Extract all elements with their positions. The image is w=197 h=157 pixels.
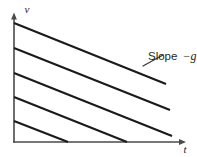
t-axis-label: t xyxy=(183,143,187,155)
velocity-line-2 xyxy=(14,48,170,110)
velocity-time-figure: v t Slope −g xyxy=(0,0,197,157)
velocity-line-4 xyxy=(14,97,127,142)
v-axis-label: v xyxy=(25,3,30,15)
arrow-up-icon xyxy=(11,13,17,20)
figure-canvas: v t Slope −g xyxy=(0,0,197,157)
velocity-line-1 xyxy=(14,23,166,84)
data-lines-group xyxy=(14,23,172,142)
velocity-line-5 xyxy=(14,121,68,142)
velocity-line-3 xyxy=(14,73,172,136)
slope-annotation-variable: −g xyxy=(182,49,196,63)
slope-annotation-text: Slope xyxy=(148,50,177,62)
